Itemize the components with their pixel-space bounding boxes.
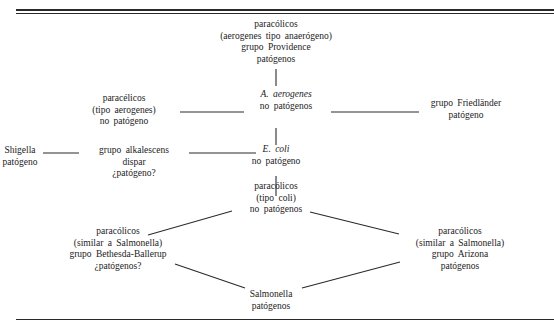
node-salmonella: Salmonella patógenos — [250, 289, 293, 312]
node-line: ¿patógeno? — [99, 168, 169, 180]
node-friedlander: grupo Friedländer patógeno — [431, 98, 501, 121]
node-line: grupo Bethesda-Ballerup — [69, 249, 166, 261]
node-line: no patógenos — [260, 101, 312, 113]
node-alkalescens: grupo alkalescens dispar ¿patógeno? — [99, 145, 169, 180]
node-line: no patógeno — [92, 116, 155, 128]
node-line: grupo Friedländer — [431, 98, 501, 110]
edge-tipocoli-arizona — [310, 212, 399, 234]
node-e-coli: E. coli no patógeno — [252, 144, 301, 167]
node-line: patógeno — [3, 157, 38, 169]
node-line: no patógenos — [250, 204, 302, 216]
edge-arizona-salmonella — [302, 262, 400, 288]
node-line: ¿patógenos? — [69, 261, 166, 273]
node-line: E. coli — [252, 144, 301, 156]
node-line: grupo alkalescens — [99, 145, 169, 157]
node-line: patógenos — [416, 261, 504, 273]
node-line: grupo Providence — [220, 42, 332, 54]
node-line: paracélicos — [92, 93, 155, 105]
node-line: paracólicos — [220, 19, 332, 31]
node-line: (tipo aerogenes) — [92, 105, 155, 117]
node-bethesda-ballerup: paracólicos (similar a Salmonella) grupo… — [69, 226, 166, 272]
node-line: no patógeno — [252, 156, 301, 168]
node-tipo-coli: paracólicos (tipo coli) no patógenos — [250, 181, 302, 216]
node-line: A. aerogenes — [260, 89, 312, 101]
node-tipo-aerogenes: paracélicos (tipo aerogenes) no patógeno — [92, 93, 155, 128]
node-shigella: Shigella patógeno — [3, 145, 38, 168]
node-line: patógenos — [250, 301, 293, 313]
edge-bethesda-salmonella — [175, 264, 245, 288]
node-line: (tipo coli) — [250, 193, 302, 205]
node-line: patógeno — [431, 110, 501, 122]
node-line: paracólicos — [250, 181, 302, 193]
node-a-aerogenes: A. aerogenes no patógenos — [260, 89, 312, 112]
node-line: (aerogenes tipo anaerógeno) — [220, 31, 332, 43]
node-line: paracólicos — [416, 226, 504, 238]
node-line: Shigella — [3, 145, 38, 157]
node-paracolicos-providence: paracólicos (aerogenes tipo anaerógeno) … — [220, 19, 332, 65]
node-line: patógenos — [220, 54, 332, 66]
node-line: Salmonella — [250, 289, 293, 301]
node-line: (similar a Salmonella) — [416, 238, 504, 250]
node-line: dispar — [99, 157, 169, 169]
node-line: paracólicos — [69, 226, 166, 238]
node-arizona: paracólicos (similar a Salmonella) grupo… — [416, 226, 504, 272]
node-line: (similar a Salmonella) — [69, 238, 166, 250]
node-line: grupo Arizona — [416, 249, 504, 261]
